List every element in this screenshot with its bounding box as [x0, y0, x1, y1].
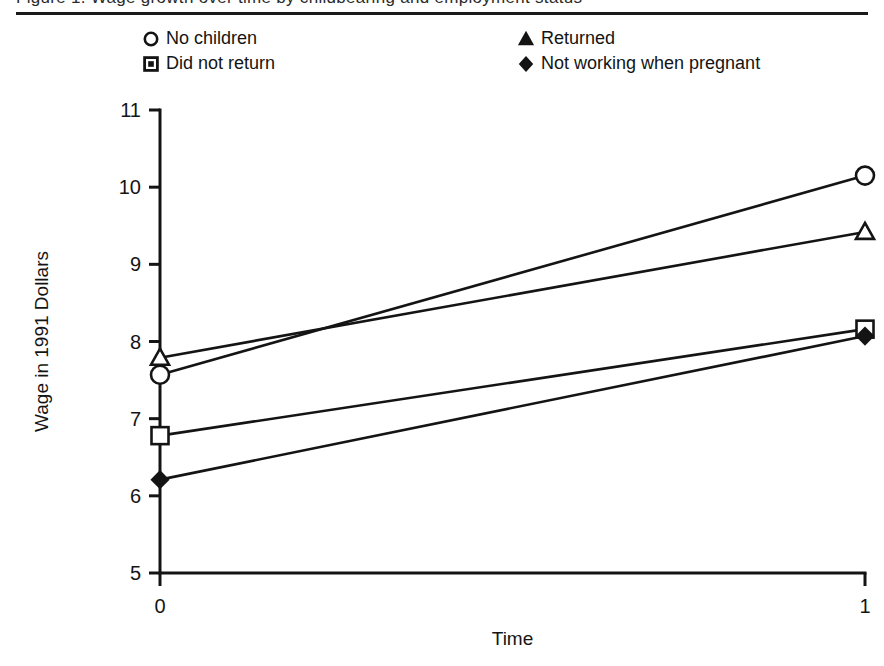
triangle-marker-icon — [515, 28, 537, 50]
y-axis-tick-label: 5 — [130, 562, 141, 584]
legend-column-left: No children Did not return — [140, 26, 275, 76]
y-axis-tick-label: 7 — [130, 408, 141, 430]
y-axis-tick-label: 10 — [119, 176, 141, 198]
data-point-square — [152, 427, 169, 444]
data-point-diamond — [152, 472, 168, 488]
y-axis-tick-label: 8 — [130, 331, 141, 353]
figure-container: Figure 1. Wage growth over time by child… — [0, 0, 884, 666]
figure-caption-clipped: Figure 1. Wage growth over time by child… — [16, 0, 868, 10]
legend-label-returned: Returned — [537, 28, 615, 49]
y-axis-tick-label: 6 — [130, 485, 141, 507]
x-axis-tick-label: 1 — [859, 595, 870, 617]
legend-item-no-children: No children — [140, 26, 275, 51]
legend-item-returned: Returned — [515, 26, 760, 51]
legend-column-right: Returned Not working when pregnant — [515, 26, 760, 76]
legend-label-did-not-return: Did not return — [162, 53, 275, 74]
legend-label-no-children: No children — [162, 28, 257, 49]
figure-top-rule — [16, 12, 868, 15]
square-marker-icon — [140, 53, 162, 75]
line-chart-plot: 56789101101TimeWage in 1991 Dollars — [0, 0, 884, 666]
diamond-marker-icon — [515, 53, 537, 75]
y-axis-title: Wage in 1991 Dollars — [31, 251, 52, 432]
series-line-triangle — [160, 232, 865, 358]
x-axis-title: Time — [492, 628, 534, 649]
circle-marker-icon — [140, 28, 162, 50]
y-axis-tick-label: 11 — [120, 99, 141, 121]
chart-axes — [160, 110, 865, 573]
legend-item-not-working-when-pregnant: Not working when pregnant — [515, 51, 760, 76]
y-axis-tick-label: 9 — [130, 253, 141, 275]
data-point-triangle — [856, 223, 874, 239]
data-point-circle — [151, 366, 169, 384]
legend-label-not-working-when-pregnant: Not working when pregnant — [537, 53, 760, 74]
data-point-circle — [856, 167, 874, 185]
x-axis-tick-label: 0 — [154, 595, 165, 617]
legend-item-did-not-return: Did not return — [140, 51, 275, 76]
series-line-diamond — [160, 336, 865, 480]
chart-legend: No children Did not return — [140, 26, 860, 78]
